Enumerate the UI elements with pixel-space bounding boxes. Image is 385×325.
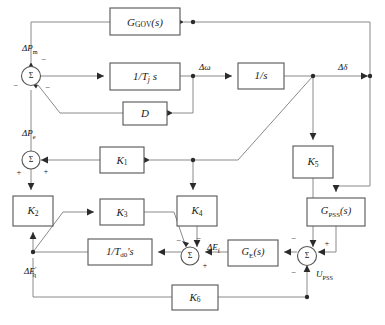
arrow-into-td0 [158,249,165,256]
junction-gov-tap [191,20,195,24]
block-k6[interactable]: K6 [172,285,218,310]
block-1-over-tj-s[interactable]: 1/Tj s [110,63,180,90]
summer-upss-symbol: Σ [305,251,310,260]
junction-outer-right [368,74,372,78]
diagram-canvas: GGOV(s) 1/Tj s D 1/s K1 K2 K3 K4 [0,0,385,325]
sign-pe-left: + [17,167,22,177]
block-k4[interactable]: K4 [177,196,217,226]
sign-pe-right: + [44,166,49,176]
block-ge[interactable]: GE(s) [228,240,278,266]
sign-upss-k6: − [292,267,297,277]
sign-pm-left: − [14,80,19,90]
summer-delta-pe[interactable]: Σ [22,151,40,169]
arrow-into-ge [284,249,291,256]
block-1-over-s[interactable]: 1/s [238,63,284,89]
arrow-into-sumpe [41,157,48,164]
arrow-k3-into-sumef [182,241,189,247]
junction-omega [191,74,195,78]
arrow-into-k4 [190,183,197,190]
block-ge-label: GE(s) [242,246,265,259]
block-k1[interactable]: K1 [100,147,144,173]
arrow-k2-from-deq [30,232,37,239]
arrow-into-k3 [87,209,94,216]
summer-upss[interactable]: Σ [298,247,317,266]
label-delta-eq: ΔE'q [23,265,37,278]
block-diagram: GGOV(s) 1/Tj s D 1/s K1 K2 K3 K4 [0,0,385,325]
junction-k1-tap [191,158,195,162]
block-ggov[interactable]: GGOV(s) [110,8,180,35]
junction-deq [31,250,35,254]
summer-delta-ef[interactable]: Σ [181,247,199,265]
wire-delta-to-gpss-corner [336,76,370,186]
sign-upss-plus: + [325,238,330,248]
block-d[interactable]: D [123,102,167,125]
block-k3[interactable]: K3 [100,199,144,225]
junction-delta [311,74,315,78]
arrow-into-k5 [310,133,317,140]
label-delta-pe: ΔPe [21,128,36,140]
sign-pm-d: − [46,82,51,92]
arrow-into-invs [225,73,232,80]
summer-pm-symbol: Σ [29,71,34,80]
arrow-into-k2 [28,183,35,190]
arrow-gpss-into-sumupss [318,249,325,256]
sign-upss-k5: − [292,233,297,243]
label-upss: UPSS [316,269,333,281]
label-delta-omega: Δω [198,62,211,72]
label-delta-delta: Δδ [337,62,348,72]
block-gpss[interactable]: GPSS(s) [307,198,365,226]
block-d-label: D [140,107,149,119]
sign-ef-plus: + [203,260,208,270]
summer-pe-symbol: Σ [29,155,34,164]
sign-ef-k4: − [197,233,202,243]
block-invs-label: 1/s [255,69,268,81]
arrow-into-tj [97,73,104,80]
block-td0-label: 1/Td0's [106,246,133,259]
junction-upss-bottom [305,295,309,299]
summer-ef-symbol: Σ [188,251,193,260]
label-delta-ef: ΔEf [206,242,221,254]
block-k2[interactable]: K2 [13,196,53,226]
block-k5[interactable]: K5 [293,146,333,178]
label-delta-pm: ΔPm [21,43,38,55]
arrow-delta-out [361,73,368,80]
arrow-into-gpss [333,185,340,192]
sign-pm-top: − [42,54,47,64]
sign-ef-k3: − [177,235,182,245]
block-tj-label: 1/Tj s [133,70,157,84]
arrow-k5-into-sumupss [310,240,317,247]
summer-delta-pm[interactable]: Σ [22,67,41,86]
block-1-over-td0-s[interactable]: 1/Td0's [88,239,152,265]
